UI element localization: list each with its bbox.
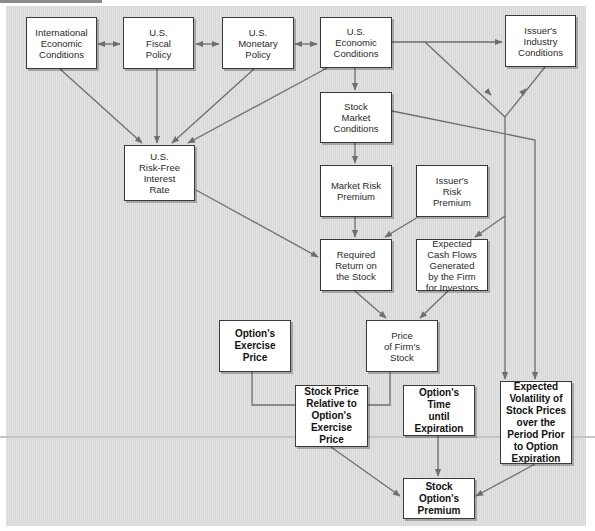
edge-volatility-premium [476,464,535,496]
node-international-economic-conditions: International Economic Conditions [26,17,97,69]
node-issuers-industry-conditions: Issuer's Industry Conditions [505,15,576,67]
edge-required-price [355,291,386,318]
edge-intl-riskfree [60,69,142,143]
node-stock-market-conditions: Stock Market Conditions [320,92,392,143]
edge-exercise-relative [252,372,296,405]
edge-riskfree-required [196,190,318,257]
edge-monetary-riskfree [172,69,254,143]
edge-industry-cashflows [475,216,505,237]
node-options-exercise-price: Option's Exercise Price [219,320,291,372]
node-options-time-until-expiration: Option's Time until Expiration [403,385,475,436]
node-stock-price-relative-to-exercise-price: Stock Price Relative to Option's Exercis… [295,385,368,447]
edge-economic-v [425,42,505,117]
node-us-fiscal-policy: U.S. Fiscal Policy [123,17,194,69]
node-issuers-risk-premium: Issuer's Risk Premium [416,165,488,217]
edge-price-relative [368,372,390,405]
node-market-risk-premium: Market Risk Premium [320,165,392,217]
node-us-risk-free-interest-rate: U.S. Risk-Free Interest Rate [124,145,195,201]
node-stock-options-premium: Stock Option's Premium [403,478,475,519]
node-us-monetary-policy: U.S. Monetary Policy [222,17,294,69]
edge-relative-premium [331,447,400,496]
edge-industry-v [505,67,545,117]
edge-issuerrisk-required [385,217,418,237]
edge-economic-riskfree [188,68,327,143]
node-required-return-on-stock: Required Return on the Stock [320,239,392,291]
node-expected-volatility: Expected Volatility of Stock Prices over… [500,381,572,464]
edge-cashflows-price [420,291,448,318]
node-us-economic-conditions: U.S. Economic Conditions [320,17,392,68]
node-expected-cash-flows: Expected Cash Flows Generated by the Fir… [416,239,488,291]
node-price-of-firms-stock: Price of Firm's Stock [366,320,438,372]
